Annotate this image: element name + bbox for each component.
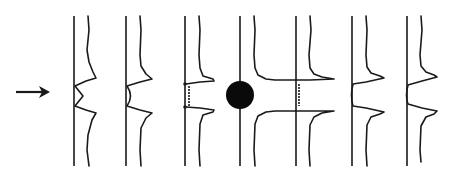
panel-6 [352,16,385,166]
panel-3 [183,16,214,166]
panel-5 [296,16,334,166]
wave-diagram [0,0,452,176]
panel-1 [74,16,96,166]
panel-4 [226,16,296,166]
panel-2 [126,16,152,166]
panel-7 [407,16,438,166]
ball [226,81,254,109]
right-arrow-icon [16,86,50,98]
